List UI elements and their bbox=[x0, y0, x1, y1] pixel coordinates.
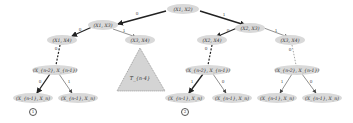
edge-label-r-rl: 0 bbox=[227, 28, 230, 33]
node-label-rr: (X3, X4) bbox=[281, 38, 300, 43]
edge-root-left bbox=[118, 11, 166, 24]
node-label-lr: (X3, X4) bbox=[131, 38, 150, 43]
node-label-lldeep: (X_{n-2}, X_{n-1}) bbox=[33, 68, 77, 73]
edge-label-rrdeep-rrl: 1 bbox=[281, 79, 284, 84]
node-label-rlr: (X_{n-1}, X_n) bbox=[215, 96, 249, 101]
edge-label-root-r: 1 bbox=[223, 12, 226, 17]
edge-label-l-lr: 1 bbox=[123, 28, 126, 33]
node-label-lll: (X_{n-1}, X_n) bbox=[16, 96, 50, 101]
leaf-marker-2: 2 bbox=[181, 108, 189, 116]
edge-rrdeep-rrr bbox=[302, 74, 316, 93]
edge-l-ll bbox=[72, 27, 92, 36]
edge-rldeep-rll bbox=[189, 74, 203, 93]
edge-label-rldeep-rll: 1 bbox=[191, 79, 194, 84]
edge-lldeep-llr bbox=[59, 74, 72, 93]
node-label-rrl: (X_{n-1}, X_n) bbox=[260, 96, 294, 101]
edge-label-r-rr: 1 bbox=[275, 28, 278, 33]
node-label-rll: (X_{n-1}, X_n) bbox=[168, 96, 202, 101]
node-label-root: (X1, X2) bbox=[174, 7, 193, 12]
edge-label-rl-down: 0 bbox=[205, 46, 208, 51]
node-label-ll: (X1, X4) bbox=[53, 38, 72, 43]
edge-label-lldeep-lll: 0 bbox=[39, 79, 42, 84]
tree-diagram bbox=[0, 0, 353, 123]
node-label-rrr: (X_{n-1}, X_n) bbox=[305, 96, 339, 101]
subtree-label: T_{n-4} bbox=[130, 75, 150, 81]
edge-label-rldeep-rlr: 0 bbox=[222, 79, 225, 84]
edge-label-l-ll: 0 bbox=[79, 27, 82, 32]
edge-label-rrdeep-rrr: 0 bbox=[310, 79, 313, 84]
edge-lldeep-lll bbox=[37, 74, 50, 93]
node-label-r: (X2, X3) bbox=[241, 26, 260, 31]
edge-rr-down bbox=[292, 45, 296, 65]
subtree-triangle bbox=[117, 48, 165, 91]
edge-label-rr-down: 0 bbox=[289, 47, 292, 52]
node-label-rl: (X2, X4) bbox=[203, 38, 222, 43]
edge-label-root-l: 0 bbox=[136, 11, 139, 16]
leaf-marker-1: 1 bbox=[29, 108, 37, 116]
edge-label-lldeep-llr: 1 bbox=[68, 79, 71, 84]
edge-label-ll-down: 0 bbox=[55, 46, 58, 51]
edge-rl-down bbox=[208, 45, 212, 65]
edge-rrdeep-rrl bbox=[280, 74, 292, 93]
edge-rldeep-rlr bbox=[213, 74, 226, 93]
node-label-llr: (X_{n-1}, X_n) bbox=[61, 96, 95, 101]
node-label-l: (X1, X3) bbox=[94, 23, 113, 28]
node-label-rrdeep: (X_{n-2}, X_{n-1}) bbox=[275, 68, 319, 73]
node-label-rldeep: (X_{n-2}, X_{n-1}) bbox=[186, 68, 230, 73]
